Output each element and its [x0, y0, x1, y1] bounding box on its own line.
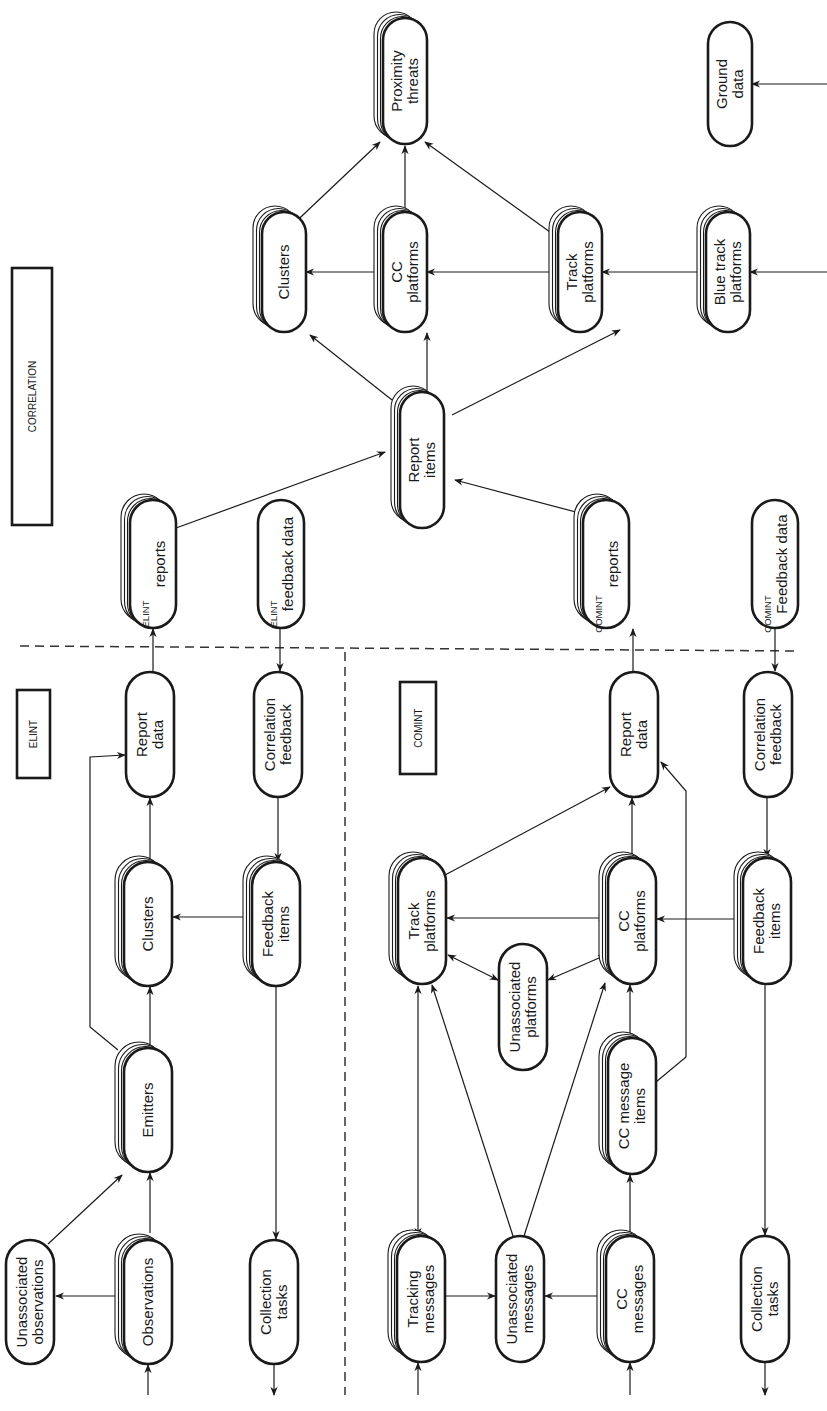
- section-label-correlation: CORRELATION: [12, 268, 52, 525]
- node-label-line: platforms: [631, 890, 648, 952]
- node-label-line: platforms: [727, 241, 744, 303]
- node-blue-track-platforms[interactable]: Blue trackplatforms: [697, 206, 750, 332]
- node-label-line: Feedback data: [773, 514, 790, 614]
- node-label-line: Track: [563, 253, 580, 290]
- node-label: Blue trackplatforms: [711, 238, 744, 305]
- node-label: Proximitythreats: [388, 50, 421, 112]
- node-label-line: Tracking: [404, 1271, 421, 1328]
- node-label-line: Emitters: [139, 1082, 156, 1137]
- node-label-line: platforms: [522, 976, 539, 1038]
- node-comint-feedback-items[interactable]: Feedbackitems: [734, 852, 791, 984]
- section-label-text: CORRELATION: [27, 361, 38, 433]
- edge-unassociated-platforms-to-comint-cc-platforms: [548, 955, 606, 980]
- node-label-line: threats: [404, 58, 421, 104]
- section-label-elint: ELINT: [17, 690, 50, 778]
- node-proximity-threats[interactable]: Proximitythreats: [374, 12, 427, 144]
- edge-corr-track-platforms-to-proximity-threats: [425, 142, 568, 245]
- node-label-prefix: COMINT: [593, 595, 604, 633]
- node-elint-clusters[interactable]: Clusters: [115, 856, 172, 986]
- node-label-line: data: [729, 69, 746, 99]
- node-label: Clusters: [275, 244, 292, 299]
- node-label-line: observations: [29, 1259, 46, 1344]
- node-corr-cc-platforms[interactable]: CCplatforms: [374, 206, 427, 332]
- node-label: Unassociatedobservations: [13, 1257, 46, 1348]
- node-label-line: Clusters: [275, 244, 292, 299]
- node-comint-reports[interactable]: COMINTreports: [574, 494, 629, 633]
- node-label-line: Ground: [713, 59, 730, 109]
- node-label-line: Correlation: [751, 698, 768, 771]
- node-comint-track-platforms[interactable]: Trackplatforms: [389, 852, 446, 984]
- node-label-line: Unassociated: [13, 1257, 30, 1348]
- node-label: Unassociatedmessages: [503, 1254, 536, 1345]
- node-observations[interactable]: Observations: [115, 1234, 172, 1364]
- node-label-line: CC: [388, 261, 405, 283]
- node-label-line: Collection: [257, 1269, 274, 1335]
- node-unassociated-messages[interactable]: Unassociatedmessages: [496, 1236, 544, 1362]
- edge-comint-track-platforms-to-comint-report-data: [445, 787, 610, 875]
- section-labels: CORRELATIONELINTCOMINT: [12, 268, 436, 778]
- edge-report-items-to-corr-track-platforms: [452, 330, 620, 415]
- node-corr-track-platforms[interactable]: Trackplatforms: [549, 206, 602, 332]
- node-cc-message-items[interactable]: CC messageitems: [599, 1032, 656, 1174]
- node-label-line: Report: [405, 437, 422, 483]
- node-label-line: CC message: [615, 1063, 632, 1150]
- node-label-line: reports: [604, 541, 621, 588]
- node-elint-feedback-items[interactable]: Feedbackitems: [243, 856, 300, 986]
- node-label-line: platforms: [579, 241, 596, 303]
- node-label-line: Feedback: [750, 888, 767, 954]
- node-label-line: items: [421, 442, 438, 478]
- node-label-line: Unassociated: [503, 1254, 520, 1345]
- node-label-prefix: ELINT: [140, 600, 151, 627]
- node-elint-feedback-data[interactable]: ELINTfeedback data: [258, 500, 304, 628]
- node-label-line: Unassociated: [506, 962, 523, 1053]
- node-label-line: feedback: [277, 704, 294, 765]
- node-label-line: messages: [629, 1265, 646, 1333]
- node-tracking-messages[interactable]: Trackingmessages: [388, 1230, 445, 1362]
- node-label-line: Collection: [748, 1266, 765, 1332]
- node-label-line: Report: [133, 711, 150, 757]
- edge-cc-message-items-to-comint-report-data: [656, 762, 686, 1082]
- edge-unassociated-observations-to-emitters: [48, 1175, 122, 1244]
- node-label: Trackingmessages: [404, 1265, 437, 1333]
- node-comint-feedback-data[interactable]: COMINTFeedback data: [752, 500, 798, 633]
- node-unassociated-observations[interactable]: Unassociatedobservations: [6, 1240, 54, 1364]
- node-label-line: tasks: [273, 1284, 290, 1319]
- node-label-line: Blue track: [711, 238, 728, 305]
- node-unassociated-platforms[interactable]: Unassociatedplatforms: [499, 944, 547, 1070]
- edge-comint-track-platforms-to-unassociated-platforms: [448, 955, 498, 980]
- node-cc-messages[interactable]: CCmessages: [597, 1230, 654, 1362]
- node-label-line: platforms: [404, 241, 421, 303]
- dataflow-diagram: CORRELATIONELINTCOMINT ProximitythreatsG…: [0, 0, 827, 1411]
- node-label-line: Clusters: [139, 896, 156, 951]
- node-label-line: data: [633, 719, 650, 749]
- node-label-line: CC: [615, 910, 632, 932]
- node-label-line: Report: [617, 711, 634, 757]
- node-label-line: messages: [420, 1265, 437, 1333]
- node-label-line: items: [275, 906, 292, 942]
- node-label-line: items: [766, 903, 783, 939]
- correlation-divider: [20, 646, 800, 651]
- node-elint-reports[interactable]: ELINTreports: [121, 494, 176, 628]
- node-corr-clusters[interactable]: Clusters: [253, 206, 306, 332]
- node-label-line: feedback: [767, 704, 784, 765]
- node-label-line: tasks: [764, 1281, 781, 1316]
- node-label-line: Correlation: [261, 698, 278, 771]
- node-comint-collection-tasks[interactable]: Collectiontasks: [741, 1236, 789, 1362]
- node-label-line: Track: [405, 902, 422, 939]
- node-label-line: feedback data: [279, 516, 296, 611]
- edge-report-items-to-corr-clusters: [310, 335, 392, 400]
- node-comint-cc-platforms[interactable]: CCplatforms: [599, 852, 656, 984]
- node-label-line: data: [149, 719, 166, 749]
- node-report-items[interactable]: Reportitems: [391, 386, 444, 528]
- node-label: Clusters: [139, 896, 156, 951]
- node-emitters[interactable]: Emitters: [115, 1042, 172, 1172]
- node-comint-report-data[interactable]: Reportdata: [610, 672, 658, 797]
- node-label-line: reports: [151, 541, 168, 588]
- node-comint-correlation-feedback[interactable]: Correlationfeedback: [744, 672, 792, 797]
- node-label-line: CC: [613, 1288, 630, 1310]
- node-elint-report-data[interactable]: Reportdata: [126, 672, 174, 797]
- node-elint-collection-tasks[interactable]: Collectiontasks: [250, 1240, 298, 1364]
- node-label: Observations: [139, 1258, 156, 1346]
- node-elint-correlation-feedback[interactable]: Correlationfeedback: [254, 672, 302, 797]
- node-ground-data[interactable]: Grounddata: [708, 22, 752, 146]
